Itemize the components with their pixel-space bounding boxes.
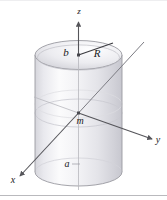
axis-label-x: x (10, 174, 16, 185)
figure-container: z y x b R m a (0, 0, 167, 200)
mass-label-m: m (76, 115, 83, 126)
dimension-label-b: b (63, 46, 69, 58)
cylinder-diagram-svg: z y x b R m a (0, 0, 167, 200)
dimension-label-R: R (93, 47, 101, 59)
axis-label-y: y (155, 134, 161, 145)
axis-label-z: z (76, 6, 81, 16)
dimension-label-a: a (65, 158, 70, 169)
